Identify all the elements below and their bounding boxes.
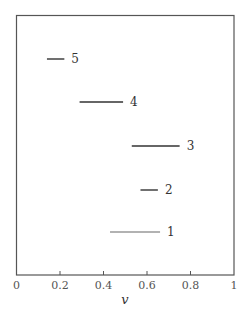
interval-label-2: 2 [165, 183, 173, 197]
x-axis-title: v [121, 292, 129, 307]
plot-frame [17, 16, 235, 276]
interval-chart: 00.20.40.60.81 54321 v [0, 0, 249, 319]
x-tick-label: 0.2 [51, 279, 69, 292]
x-tick-label: 0 [13, 279, 20, 292]
x-axis-tick-labels: 00.20.40.60.81 [13, 279, 238, 292]
x-tick-label: 0.4 [95, 279, 113, 292]
interval-label-5: 5 [71, 52, 79, 66]
x-tick-label: 1 [231, 279, 238, 292]
x-tick-label: 0.8 [182, 279, 200, 292]
series-intervals: 54321 [47, 52, 194, 239]
interval-label-4: 4 [130, 95, 138, 109]
interval-label-3: 3 [187, 139, 195, 153]
x-tick-label: 0.6 [138, 279, 156, 292]
interval-label-1: 1 [167, 225, 175, 239]
